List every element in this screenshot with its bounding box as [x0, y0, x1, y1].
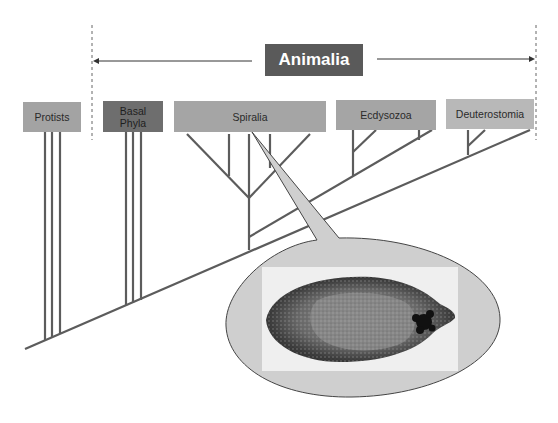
group-box-ecdysozoa: Ecdysozoa: [336, 100, 436, 130]
animalia-title-box: Animalia: [265, 44, 363, 76]
group-box-deuterostomia: Deuterostomia: [446, 99, 534, 129]
group-label-ecdysozoa: Ecdysozoa: [360, 109, 411, 121]
phylogeny-diagram: Animalia Protists Basal Phyla Spiralia E…: [0, 0, 558, 423]
group-label-deuterostomia: Deuterostomia: [456, 108, 524, 120]
group-box-basal-phyla: Basal Phyla: [103, 101, 163, 132]
animalia-title: Animalia: [279, 50, 350, 70]
group-label-basal-phyla: Basal Phyla: [120, 105, 146, 129]
group-label-spiralia: Spiralia: [232, 111, 267, 123]
group-box-protists: Protists: [23, 102, 81, 132]
flatworm-photo: [262, 267, 458, 371]
group-box-spiralia: Spiralia: [174, 101, 326, 132]
group-label-protists: Protists: [34, 111, 69, 123]
